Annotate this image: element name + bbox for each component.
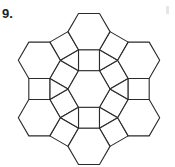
square <box>79 50 100 71</box>
square <box>128 79 149 100</box>
square <box>79 107 100 128</box>
square <box>29 79 50 100</box>
tiling-figure <box>0 0 175 167</box>
